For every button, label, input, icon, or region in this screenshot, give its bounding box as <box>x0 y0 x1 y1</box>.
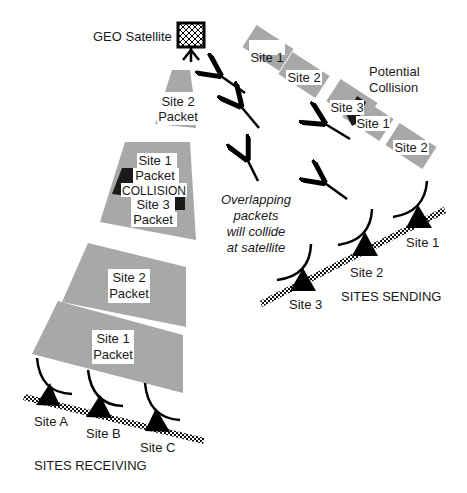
geo-satellite-icon <box>178 23 204 62</box>
note-line4: at satellite <box>227 240 286 255</box>
uplink-stream: Site 1 Site 2 Site 3 Site 1 Site 2 <box>241 23 437 169</box>
note-line2: packets <box>233 208 279 223</box>
beam-packet-top <box>165 70 193 92</box>
receiving-dish-site-a-icon <box>36 358 72 406</box>
site2-packet-line1: Site 2 <box>112 270 145 285</box>
site2-packet-line2: Packet <box>109 286 149 301</box>
site-b-label: Site B <box>86 426 121 441</box>
sending-site-1-label: Site 1 <box>406 235 439 250</box>
uplink-packet-site1-overlap: Site 1 <box>356 116 389 131</box>
note-line3: will collide <box>227 224 286 239</box>
uplink-packet-site2: Site 2 <box>287 70 320 85</box>
site1-packet-line1: Site 1 <box>96 331 129 346</box>
sites-receiving-title: SITES RECEIVING <box>34 458 147 473</box>
receiving-dish-site-b-icon <box>86 370 123 418</box>
potential-collision-line1: Potential <box>369 64 420 79</box>
site1-packet-line2: Packet <box>93 347 133 362</box>
beam-packet-1-line2: Packet <box>158 109 198 124</box>
collision-packet-site3: Site 3 <box>136 197 169 212</box>
beam-packet-1-line1: Site 2 <box>161 94 194 109</box>
potential-collision-line2: Collision <box>369 80 418 95</box>
arrow-icon <box>322 122 350 139</box>
arrow-icon <box>322 181 347 199</box>
site-a-label: Site A <box>34 414 68 429</box>
arrow-icon <box>218 74 245 93</box>
collision-label: COLLISION <box>122 184 186 198</box>
sending-dish-site-1-icon <box>393 181 432 228</box>
arrow-icon <box>239 104 259 128</box>
sending-dish-site-2-icon <box>338 209 378 256</box>
collision-packet-site3-packet: Packet <box>133 212 173 227</box>
collision-packet-site1: Site 1 <box>138 153 171 168</box>
sending-site-3-label: Site 3 <box>289 297 322 312</box>
downlink-beam: Site 2 Packet Site 1 Packet COLLISION Si… <box>32 70 199 393</box>
sites-sending-title: SITES SENDING <box>341 289 441 304</box>
site-c-label: Site C <box>140 440 175 455</box>
arrow-icon <box>246 157 258 181</box>
satellite-collision-diagram: GEO Satellite Site 2 Packet Site 1 Packe… <box>0 0 467 493</box>
satellite-label: GEO Satellite <box>93 29 172 44</box>
sending-site-2-label: Site 2 <box>350 265 383 280</box>
uplink-packet-site2-last: Site 2 <box>394 140 427 155</box>
note-line1: Overlapping <box>221 192 292 207</box>
uplink-packet-site1: Site 1 <box>250 50 283 65</box>
uplink-arrows <box>218 74 350 199</box>
collision-packet-site1-packet: Packet <box>135 168 175 183</box>
uplink-packet-site3: Site 3 <box>330 100 363 115</box>
